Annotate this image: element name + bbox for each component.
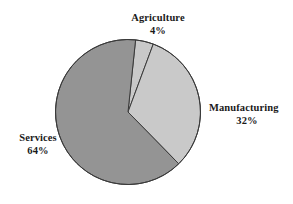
slice-label-manufacturing-value: 32% — [209, 114, 285, 127]
pie-chart: Agriculture 4% Manufacturing 32% Service… — [0, 0, 293, 204]
slice-label-agriculture-name: Agriculture — [113, 11, 203, 24]
slice-label-agriculture: Agriculture 4% — [113, 11, 203, 38]
slice-label-manufacturing: Manufacturing 32% — [209, 101, 293, 128]
slice-label-services-name: Services — [7, 131, 69, 144]
slice-label-services-value: 64% — [7, 144, 69, 157]
slice-label-services: Services 64% — [7, 131, 69, 158]
pie-slices — [56, 40, 201, 185]
slice-label-agriculture-value: 4% — [113, 24, 203, 37]
slice-label-manufacturing-name: Manufacturing — [209, 101, 293, 114]
